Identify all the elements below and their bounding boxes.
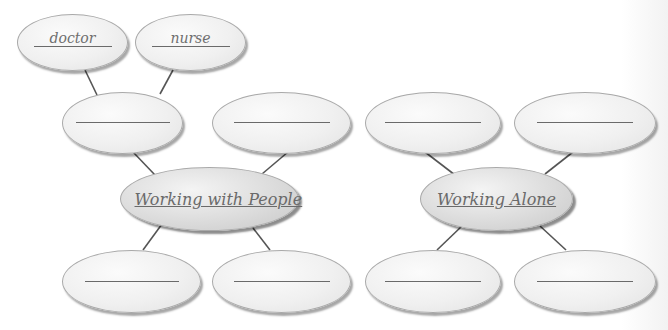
connector-right-br: [540, 226, 566, 250]
sub-bubble-doctor: doctor: [17, 14, 128, 71]
branch-bubble-left-top-left[interactable]: [62, 92, 183, 154]
connector-left-bl: [143, 224, 162, 250]
connector-left-tr: [262, 152, 288, 174]
branch-bubble-right-bottom-right[interactable]: [514, 250, 656, 313]
center-bubble-working-with-people: Working with People: [120, 167, 299, 231]
connector-left-br: [253, 228, 270, 250]
connector-right-tr: [545, 152, 573, 174]
blank-answer-line[interactable]: [234, 281, 330, 282]
branch-bubble-right-top-left[interactable]: [365, 92, 501, 154]
center-label: Working Alone: [437, 192, 557, 209]
branch-bubble-left-top-right[interactable]: [212, 92, 351, 154]
connector-doctor: [85, 70, 97, 95]
blank-answer-line[interactable]: [385, 122, 481, 123]
connector-right-tl: [425, 152, 455, 175]
blank-answer-line[interactable]: [537, 122, 633, 123]
branch-bubble-right-top-right[interactable]: [514, 92, 656, 154]
connector-left-tl: [133, 152, 155, 175]
blank-answer-line[interactable]: [234, 122, 330, 123]
sub-bubble-label: nurse: [152, 31, 230, 47]
connector-nurse: [160, 70, 173, 94]
blank-answer-line[interactable]: [85, 281, 179, 282]
sub-bubble-label: doctor: [34, 31, 112, 47]
branch-bubble-right-bottom-left[interactable]: [365, 250, 501, 313]
blank-answer-line[interactable]: [76, 122, 170, 123]
sub-bubble-nurse: nurse: [135, 14, 246, 71]
branch-bubble-left-bottom-right[interactable]: [212, 250, 351, 313]
connector-right-bl: [437, 226, 462, 250]
blank-answer-line[interactable]: [385, 281, 481, 282]
center-label: Working with People: [135, 192, 285, 209]
branch-bubble-left-bottom-left[interactable]: [62, 250, 201, 313]
blank-answer-line[interactable]: [537, 281, 633, 282]
center-bubble-working-alone: Working Alone: [420, 167, 573, 231]
